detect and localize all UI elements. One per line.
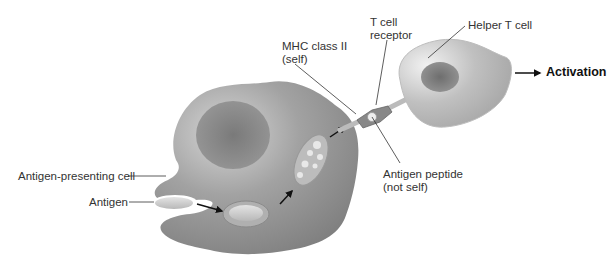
label-t-cell-receptor: T cell receptor: [370, 16, 412, 42]
apc-nucleus: [196, 101, 270, 169]
label-helper-t-cell: Helper T cell: [468, 19, 532, 32]
antigen-presenting-cell-shape: [155, 81, 359, 254]
label-mhc-class-ii: MHC class II (self): [282, 40, 347, 66]
label-antigen: Antigen: [89, 196, 128, 209]
label-tcr-line2: receptor: [370, 29, 412, 42]
t-cell-nucleus: [421, 62, 459, 92]
label-activation: Activation: [546, 66, 606, 79]
leader-tcr: [376, 40, 387, 105]
leader-peptide: [372, 117, 400, 163]
label-peptide-line1: Antigen peptide: [383, 168, 463, 181]
label-mhc-line1: MHC class II: [282, 40, 347, 53]
label-antigen-peptide: Antigen peptide (not self): [383, 168, 463, 194]
label-tcr-line1: T cell: [370, 16, 412, 29]
label-mhc-line2: (self): [282, 53, 347, 66]
label-peptide-line2: (not self): [383, 181, 463, 194]
label-antigen-presenting-cell: Antigen-presenting cell: [18, 170, 135, 183]
